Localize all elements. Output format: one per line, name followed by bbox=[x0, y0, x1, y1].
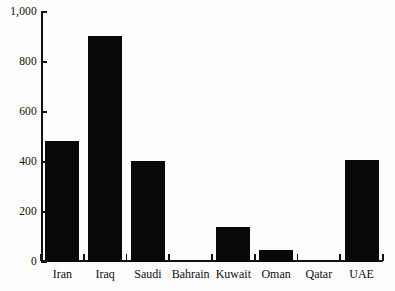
bar-uae[interactable] bbox=[345, 160, 379, 263]
x-axis-label-uae: UAE bbox=[340, 268, 383, 280]
x-axis-label-kuwait: Kuwait bbox=[212, 268, 255, 280]
x-axis-label-iran: Iran bbox=[41, 268, 84, 280]
x-axis-label-saudi: Saudi bbox=[127, 268, 170, 280]
y-axis-tick-label: 200 bbox=[1, 206, 37, 218]
bar-saudi[interactable] bbox=[131, 161, 165, 262]
bar-iraq[interactable] bbox=[88, 36, 122, 262]
bar-chart: 02004006008001,000 IranIraqSaudiBahrainK… bbox=[0, 0, 395, 291]
y-axis-tick-label: 600 bbox=[1, 106, 37, 118]
x-axis-label-bahrain: Bahrain bbox=[169, 268, 212, 280]
y-axis-tick-label: 800 bbox=[1, 56, 37, 68]
x-axis-label-oman: Oman bbox=[255, 268, 298, 280]
y-axis-tick-label: 0 bbox=[1, 256, 37, 268]
y-axis-tick-label: 400 bbox=[1, 156, 37, 168]
bar-iran[interactable] bbox=[45, 141, 79, 262]
y-axis-tick-label: 1,000 bbox=[1, 6, 37, 18]
x-axis-label-iraq: Iraq bbox=[84, 268, 127, 280]
bar-kuwait[interactable] bbox=[216, 227, 250, 262]
x-axis-label-qatar: Qatar bbox=[298, 268, 341, 280]
bar-oman[interactable] bbox=[259, 250, 293, 263]
plot-area bbox=[41, 12, 383, 262]
